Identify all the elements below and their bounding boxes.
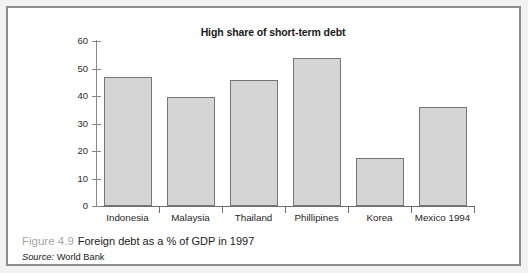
y-axis-tick [92,206,101,207]
y-axis-tick [92,96,101,97]
figure-container: High share of short-term debt 0102030405… [0,0,528,273]
figure-source: Source: World Bank [22,252,509,262]
bar-chart: High share of short-term debt 0102030405… [8,8,521,230]
bar [230,80,278,207]
figure-number: Figure 4.9 [22,235,74,247]
y-axis-tick [92,124,101,125]
bar [419,107,467,206]
source-label: Source: [22,252,54,262]
figure-caption: Figure 4.9Foreign debt as a % of GDP in … [22,234,509,262]
y-axis-tick-label: 60 [64,36,88,46]
x-axis-tick-label: Thailand [222,212,285,223]
caption-main: Figure 4.9Foreign debt as a % of GDP in … [22,234,509,249]
chart-title: High share of short-term debt [138,26,408,38]
x-axis-tick-label: Mexico 1994 [411,212,474,223]
bar [167,97,215,206]
source-value: World Bank [57,252,105,262]
figure-frame: High share of short-term debt 0102030405… [6,6,521,266]
y-axis-tick-label: 0 [64,201,88,211]
y-axis-tick [92,151,101,152]
y-axis-tick [92,41,101,42]
bar [293,58,341,207]
y-axis-tick-label: 40 [64,91,88,101]
y-axis-tick-label: 10 [64,174,88,184]
y-axis-tick-label: 20 [64,146,88,156]
x-axis-tick-label: Korea [348,212,411,223]
y-axis-tick [92,69,101,70]
y-axis-tick-label: 30 [64,119,88,129]
y-axis-tick [92,179,101,180]
x-axis-tick-label: Malaysia [159,212,222,223]
x-axis-tick-label: Phillipines [285,212,348,223]
bar [356,158,404,206]
caption-text: Foreign debt as a % of GDP in 1997 [78,235,255,247]
x-axis-tick [474,206,475,213]
bar [104,77,152,206]
y-axis-tick-label: 50 [64,64,88,74]
x-axis-tick-label: Indonesia [96,212,159,223]
